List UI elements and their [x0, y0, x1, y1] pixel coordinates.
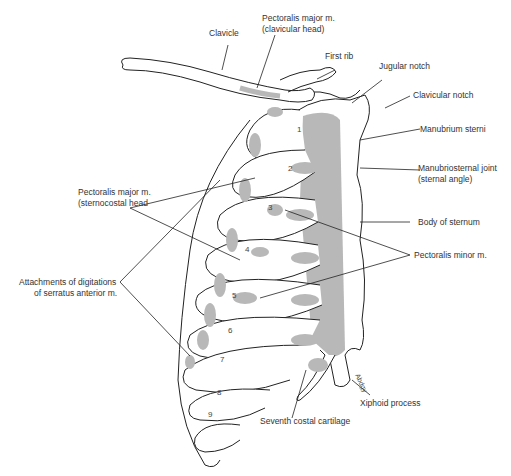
label-pectoralis-major-clavicular-line1: Pectoralis major m. — [262, 13, 335, 24]
rib-9 — [194, 424, 240, 452]
label-xiphoid-process: Xiphoid process — [360, 398, 420, 409]
thoracic-cage-diagram: 1 2 3 4 5 6 7 8 9 Abdgy — [0, 0, 511, 476]
label-serratus-line1: Attachments of digitations — [19, 277, 116, 288]
label-jugular-notch: Jugular notch — [379, 61, 430, 72]
svg-text:1: 1 — [297, 125, 302, 134]
rib-cage-illustration: 1 2 3 4 5 6 7 8 9 Abdgy — [0, 0, 511, 476]
label-clavicular-notch: Clavicular notch — [413, 90, 473, 101]
label-clavicle: Clavicle — [209, 28, 239, 39]
rib-8 — [189, 389, 270, 421]
svg-text:5: 5 — [232, 291, 237, 300]
svg-text:7: 7 — [220, 355, 225, 364]
svg-text:9: 9 — [208, 410, 213, 419]
label-pectoralis-major-clavicular-line2: (clavicular head) — [262, 24, 324, 35]
svg-text:2: 2 — [288, 164, 293, 173]
svg-text:4: 4 — [245, 245, 250, 254]
svg-text:8: 8 — [217, 388, 222, 397]
label-seventh-costal-cartilage: Seventh costal cartilage — [260, 416, 350, 427]
label-body-of-sternum: Body of sternum — [418, 217, 480, 228]
label-serratus-line2: of serratus anterior m. — [34, 288, 117, 299]
svg-text:6: 6 — [228, 326, 233, 335]
label-manubriosternal-joint-line2: (sternal angle) — [418, 174, 472, 185]
label-manubrium-sterni: Manubrium sterni — [420, 124, 486, 135]
label-pectoralis-minor: Pectoralis minor m. — [414, 250, 487, 261]
label-manubriosternal-joint-line1: Manubriosternal joint — [418, 163, 497, 174]
clavicle — [122, 58, 315, 102]
label-first-rib: First rib — [325, 51, 353, 62]
svg-text:3: 3 — [268, 203, 273, 212]
label-pectoralis-major-sternocostal-line2: (sternocostal head — [78, 198, 148, 209]
label-pectoralis-major-sternocostal-line1: Pectoralis major m. — [78, 187, 151, 198]
